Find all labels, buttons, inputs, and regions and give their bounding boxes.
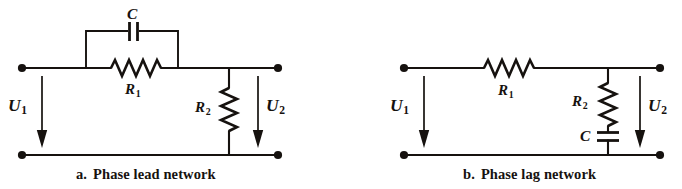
panel-b-schematic xyxy=(400,60,664,159)
panel-b-resistor-r1-symbol xyxy=(484,60,534,76)
panel-a-resistor-r2-label: R2 xyxy=(195,100,211,117)
panel-b-terminal-input-top xyxy=(400,64,408,72)
panel-b-capacitor-label: C xyxy=(580,128,591,144)
panel-a-resistor-r1-symbol xyxy=(111,60,161,76)
panel-a-terminal-output-bottom xyxy=(274,151,282,159)
panel-a-bypass-left-leg xyxy=(86,31,128,68)
circuit-figure: C R1 R2 U1 U2 R1 R2 C U1 U2 a.Phase lead… xyxy=(0,0,682,189)
panel-b-voltage-arrow-u1 xyxy=(419,76,429,148)
panel-a-voltage-arrow-u2 xyxy=(253,76,263,148)
panel-b-voltage-u2-label: U2 xyxy=(648,97,667,117)
panel-b-voltage-arrow-u2 xyxy=(635,76,645,148)
panel-a-resistor-r2-symbol xyxy=(221,88,237,131)
panel-b-caption-enumerator: b. xyxy=(463,166,475,182)
panel-a-voltage-u2-label: U2 xyxy=(266,97,285,117)
panel-b-caption-text: Phase lag network xyxy=(475,166,596,182)
panel-a-voltage-u1-label: U1 xyxy=(8,97,27,117)
panel-b-terminal-output-bottom xyxy=(656,151,664,159)
panel-b-resistor-r2-symbol xyxy=(600,83,616,126)
panel-b-terminal-input-bottom xyxy=(400,151,408,159)
panel-a-caption-text: Phase lead network xyxy=(87,166,216,182)
panel-b-terminal-output-top xyxy=(656,64,664,72)
panel-a-voltage-arrow-u1 xyxy=(37,76,47,148)
panel-a-caption: a.Phase lead network xyxy=(76,166,216,183)
panel-a-resistor-r1-label: R1 xyxy=(125,82,141,99)
panel-b-caption: b.Phase lag network xyxy=(463,166,596,183)
panel-a-terminal-output-top xyxy=(274,64,282,72)
panel-a-terminal-input-top xyxy=(18,64,26,72)
panel-a-terminal-input-bottom xyxy=(18,151,26,159)
panel-b-resistor-r2-label: R2 xyxy=(572,94,588,111)
panel-b-voltage-u1-label: U1 xyxy=(390,97,409,117)
panel-a-schematic xyxy=(18,22,282,159)
panel-b-resistor-r1-label: R1 xyxy=(498,83,514,100)
panel-a-caption-enumerator: a. xyxy=(76,166,87,182)
panel-a-capacitor-label: C xyxy=(127,6,138,22)
